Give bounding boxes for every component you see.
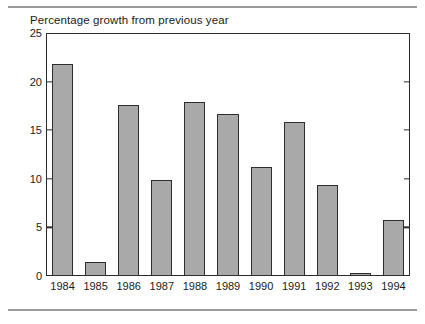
x-axis-tick-label: 1990 [249,280,273,292]
y-axis-tick-labels: 0510152025 [22,33,42,276]
y-axis-tick-mark-right [404,227,410,228]
bar-1987[interactable] [151,180,172,276]
y-axis-tick-mark-right [404,81,410,82]
top-divider-rule [8,6,417,8]
bar-1988[interactable] [184,102,205,276]
bar-1993[interactable] [350,273,371,276]
y-axis-tick-mark-right [404,178,410,179]
y-axis-tick-label: 0 [36,270,42,282]
y-axis-tick-label: 5 [36,221,42,233]
bar-1989[interactable] [217,114,238,276]
bar-1994[interactable] [383,220,404,276]
x-axis-tick-label: 1987 [150,280,174,292]
y-axis-tick-label: 10 [30,173,42,185]
bar-1992[interactable] [317,185,338,276]
x-axis-tick-label: 1992 [315,280,339,292]
x-axis-tick-label: 1989 [216,280,240,292]
y-axis-tick-label: 25 [30,27,42,39]
x-axis-tick-labels: 1984198519861987198819891990199119921993… [46,280,410,296]
bar-1986[interactable] [118,105,139,276]
y-axis-tick-mark-left [46,130,52,131]
y-axis-tick-mark-left [46,178,52,179]
bars-layer [46,33,410,276]
bar-1985[interactable] [85,262,106,276]
bar-1990[interactable] [251,167,272,276]
y-axis-tick-mark-right [404,130,410,131]
bar-1984[interactable] [52,64,73,276]
x-axis-tick-label: 1986 [116,280,140,292]
y-axis-tick-mark-left [46,227,52,228]
bottom-divider-rule [8,309,417,311]
x-axis-tick-label: 1988 [183,280,207,292]
y-axis-tick-mark-left [46,81,52,82]
y-axis-tick-label: 15 [30,124,42,136]
y-axis-tick-label: 20 [30,76,42,88]
x-axis-tick-label: 1993 [348,280,372,292]
bar-1991[interactable] [284,122,305,276]
chart-page: Percentage growth from previous year 051… [0,0,425,324]
x-axis-tick-label: 1984 [50,280,74,292]
chart-title: Percentage growth from previous year [30,14,229,26]
x-axis-tick-label: 1985 [83,280,107,292]
x-axis-tick-label: 1991 [282,280,306,292]
x-axis-tick-label: 1994 [381,280,405,292]
